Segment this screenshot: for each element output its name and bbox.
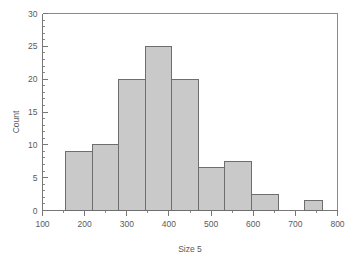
x-tick-label: 800 bbox=[330, 219, 344, 229]
histogram-bars bbox=[66, 46, 323, 210]
y-tick-label: 0 bbox=[33, 206, 38, 216]
histogram-bar bbox=[119, 79, 146, 210]
y-tick-label: 20 bbox=[28, 74, 38, 84]
x-tick-label: 300 bbox=[120, 219, 134, 229]
y-axis-tick-labels: 051015202530 bbox=[28, 9, 38, 216]
histogram-bar bbox=[92, 145, 119, 211]
histogram-bar bbox=[305, 201, 323, 211]
x-tick-label: 400 bbox=[162, 219, 176, 229]
histogram-bar bbox=[66, 151, 93, 210]
histogram-bar bbox=[172, 79, 199, 210]
x-tick-label: 100 bbox=[35, 219, 49, 229]
y-axis-title: Count bbox=[11, 110, 21, 133]
x-tick-label: 200 bbox=[78, 219, 92, 229]
y-tick-label: 5 bbox=[33, 173, 38, 183]
histogram-chart: 051015202530 100200300400500600700800 Si… bbox=[0, 0, 355, 263]
x-axis-title: Size 5 bbox=[178, 244, 202, 254]
x-tick-label: 700 bbox=[288, 219, 302, 229]
y-tick-label: 10 bbox=[28, 140, 38, 150]
y-tick-label: 30 bbox=[28, 9, 38, 19]
histogram-bar bbox=[145, 46, 172, 210]
x-tick-label: 600 bbox=[246, 219, 260, 229]
x-axis-ticks bbox=[43, 211, 338, 216]
y-tick-label: 25 bbox=[28, 41, 38, 51]
y-axis-ticks bbox=[43, 14, 48, 211]
histogram-bar bbox=[198, 168, 225, 211]
histogram-bar bbox=[225, 161, 252, 210]
x-tick-label: 500 bbox=[204, 219, 218, 229]
y-tick-label: 15 bbox=[28, 107, 38, 117]
histogram-figure: 051015202530 100200300400500600700800 Si… bbox=[0, 0, 355, 263]
x-axis-tick-labels: 100200300400500600700800 bbox=[35, 219, 344, 229]
histogram-bar bbox=[252, 194, 279, 210]
